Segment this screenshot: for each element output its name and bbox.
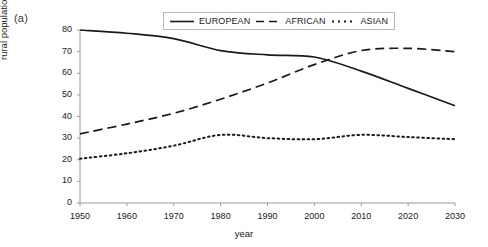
- y-tick-label: 10: [50, 175, 72, 185]
- legend: EUROPEAN AFRICAN ASIAN: [163, 12, 395, 30]
- y-tick-label: 60: [50, 67, 72, 77]
- figure-panel: (a) rural population millions year EUROP…: [0, 0, 488, 247]
- legend-label-european: EUROPEAN: [199, 16, 250, 26]
- y-tick-label: 30: [50, 132, 72, 142]
- x-tick-label: 2030: [435, 211, 475, 221]
- x-tick-label: 2010: [341, 211, 381, 221]
- y-tick-label: 40: [50, 111, 72, 121]
- series-line-asian: [80, 135, 455, 159]
- x-axis-title: year: [0, 228, 488, 239]
- legend-item-european: EUROPEAN: [169, 16, 250, 26]
- chart-canvas: [0, 0, 488, 247]
- x-tick-label: 1960: [107, 211, 147, 221]
- legend-label-african: AFRICAN: [285, 16, 325, 26]
- legend-key-solid-icon: [169, 17, 195, 26]
- axis-lines: [80, 30, 455, 203]
- y-tick-label: 80: [50, 24, 72, 34]
- x-tick-label: 1970: [154, 211, 194, 221]
- data-series-group: [80, 30, 455, 159]
- x-tick-label: 1980: [201, 211, 241, 221]
- legend-key-dashed-icon: [255, 17, 281, 26]
- y-tick-label: 70: [50, 46, 72, 56]
- x-tick-label: 1990: [248, 211, 288, 221]
- series-line-european: [80, 30, 455, 106]
- legend-key-dotted-icon: [331, 17, 357, 26]
- y-axis-title: rural population millions: [0, 0, 9, 60]
- series-line-african: [80, 48, 455, 134]
- legend-label-asian: ASIAN: [361, 16, 389, 26]
- y-tick-label: 50: [50, 89, 72, 99]
- x-tick-label: 1950: [60, 211, 100, 221]
- x-tick-label: 2000: [294, 211, 334, 221]
- y-tick-label: 20: [50, 154, 72, 164]
- y-tick-label: 0: [50, 197, 72, 207]
- legend-item-african: AFRICAN: [255, 16, 325, 26]
- legend-item-asian: ASIAN: [331, 16, 389, 26]
- x-tick-label: 2020: [388, 211, 428, 221]
